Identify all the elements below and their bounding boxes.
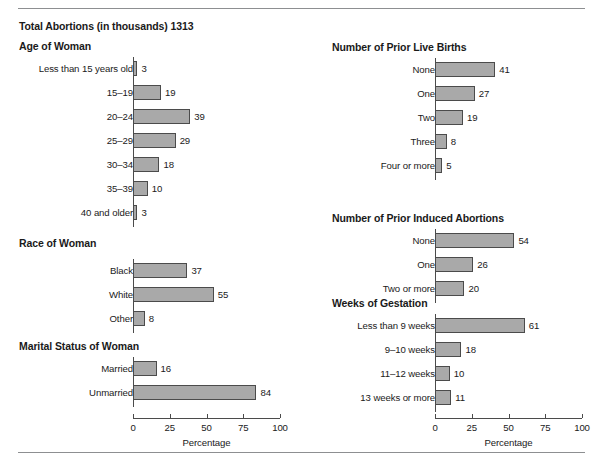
axis-tick [133,414,134,418]
bar-row: None54 [332,232,592,250]
bar-row: Black37 [19,262,279,280]
category-axis-line [133,57,134,227]
bar-row-label: 20–24 [19,108,133,126]
axis-tick [435,414,436,418]
axis-tick [545,414,546,418]
bar-row: 9–10 weeks18 [332,341,592,359]
axis-title: Percentage [127,437,287,448]
axis-tick-label: 100 [265,422,295,433]
axis-title: Percentage [429,437,589,448]
axis-tick [280,414,281,418]
axis-tick [509,414,510,418]
value-axis-line [133,418,280,419]
bar-row: Unmarried84 [19,384,279,402]
bar-row-label: None [332,232,435,250]
axis-tick-label: 75 [530,422,560,433]
bar-value-label: 29 [180,132,190,150]
bar-row-label: 30–34 [19,156,133,174]
bar-value-label: 18 [465,341,475,359]
category-axis-line [435,314,436,412]
bar-row: One27 [332,85,592,103]
bar-row: 20–2439 [19,108,279,126]
bar-value-label: 19 [467,109,477,127]
bar-row-label: Two [332,109,435,127]
bar [133,85,161,100]
bar-value-label: 16 [161,360,171,378]
bar-row: None41 [332,61,592,79]
bar-value-label: 18 [163,156,173,174]
section-title-race: Race of Woman [19,237,96,249]
bar-row-label: 13 weeks or more [332,389,435,407]
bar-value-label: 10 [152,180,162,198]
axis-tick-label: 0 [118,422,148,433]
bar-row: 11–12 weeks10 [332,365,592,383]
bar-row-label: 25–29 [19,132,133,150]
bar [133,109,190,124]
bar-row: One26 [332,256,592,274]
bar-row-label: White [19,286,133,304]
bar-row: 40 and older3 [19,204,279,222]
bar [435,86,475,101]
bar-row: Four or more5 [332,157,592,175]
bar-row-label: Other [19,310,133,328]
bar-row: Married16 [19,360,279,378]
bar-row: 30–3418 [19,156,279,174]
bar-row-label: Unmarried [19,384,133,402]
bar-row-label: One [332,256,435,274]
axis-tick-label: 50 [494,422,524,433]
bar-row-label: 40 and older [19,204,133,222]
axis-tick [243,414,244,418]
bar [133,361,157,376]
axis-tick-label: 100 [567,422,597,433]
bar-row-label: Married [19,360,133,378]
bar-row-label: Less than 15 years old [19,60,133,78]
top-divider-rule [18,8,585,9]
bar-value-label: 41 [499,61,509,79]
bar-value-label: 61 [529,317,539,335]
bar-row: Other8 [19,310,279,328]
bar-value-label: 55 [218,286,228,304]
bar-row-label: Three [332,133,435,151]
bar-row: White55 [19,286,279,304]
bar-row: 15–1919 [19,84,279,102]
bar [435,342,461,357]
bar [435,366,450,381]
bar-value-label: 8 [451,133,456,151]
bar [435,390,451,405]
bar-row-label: One [332,85,435,103]
bar-row: Less than 9 weeks61 [332,317,592,335]
category-axis-line [133,357,134,407]
bar [435,110,463,125]
value-axis-line [435,418,582,419]
bar [435,281,464,296]
section-title-prior-abortions: Number of Prior Induced Abortions [332,212,504,224]
bar [133,263,187,278]
bar-value-label: 11 [455,389,465,407]
bar [133,385,256,400]
section-title-gestation: Weeks of Gestation [332,297,427,309]
bar-value-label: 27 [479,85,489,103]
bar-value-label: 20 [468,280,478,298]
bar-row: Less than 15 years old3 [19,60,279,78]
axis-tick-label: 0 [420,422,450,433]
bar-value-label: 54 [518,232,528,250]
bar-row-label: Two or more [332,280,435,298]
bottom-divider-rule [18,452,585,453]
bar-value-label: 10 [454,365,464,383]
bar-value-label: 5 [446,157,451,175]
bar-row: Two or more20 [332,280,592,298]
axis-tick [472,414,473,418]
axis-tick-label: 50 [192,422,222,433]
bar-row: 13 weeks or more11 [332,389,592,407]
bar-row: Three8 [332,133,592,151]
section-title-marital: Marital Status of Woman [19,340,139,352]
bar-row-label: Black [19,262,133,280]
bar [133,133,176,148]
bar [133,181,148,196]
bar-row-label: Four or more [332,157,435,175]
axis-tick-label: 25 [457,422,487,433]
bar-row: Two19 [332,109,592,127]
bar-value-label: 19 [165,84,175,102]
section-title-births: Number of Prior Live Births [332,41,466,53]
bar-value-label: 37 [191,262,201,280]
